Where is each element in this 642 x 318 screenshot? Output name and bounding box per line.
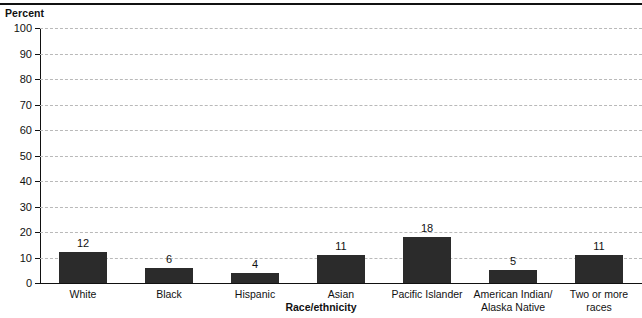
bar-value-label: 12 bbox=[59, 237, 107, 249]
y-tick-label-80: 80 bbox=[20, 73, 32, 85]
x-tick-label: Pacific Islander bbox=[384, 288, 470, 301]
y-tick-label-90: 90 bbox=[20, 48, 32, 60]
bar-slot: 4 bbox=[231, 28, 279, 283]
bar-series: 12641118511 bbox=[40, 28, 642, 283]
x-tick-label-line: Pacific Islander bbox=[384, 288, 470, 301]
x-tick-label: Asian bbox=[298, 288, 384, 301]
y-tick-label-50: 50 bbox=[20, 150, 32, 162]
gridline-0 bbox=[40, 283, 642, 284]
bar[interactable] bbox=[145, 268, 193, 283]
x-tick-label-line: Asian bbox=[298, 288, 384, 301]
y-tick-label-70: 70 bbox=[20, 99, 32, 111]
bar-value-label: 11 bbox=[575, 240, 623, 252]
bar[interactable] bbox=[575, 255, 623, 283]
bar[interactable] bbox=[403, 237, 451, 283]
bar-value-label: 4 bbox=[231, 258, 279, 270]
top-cutoff-text bbox=[400, 0, 642, 1]
plot-area: 0102030405060708090100 12641118511 bbox=[40, 28, 642, 283]
y-tick-label-0: 0 bbox=[26, 277, 32, 289]
x-tick-label: White bbox=[40, 288, 126, 301]
x-tick-label-line: Hispanic bbox=[212, 288, 298, 301]
bar-slot: 6 bbox=[145, 28, 193, 283]
y-tick-mark-0 bbox=[35, 283, 40, 284]
bar-slot: 11 bbox=[575, 28, 623, 283]
bar-value-label: 5 bbox=[489, 255, 537, 267]
y-tick-label-100: 100 bbox=[14, 22, 32, 34]
y-tick-label-30: 30 bbox=[20, 201, 32, 213]
y-tick-label-10: 10 bbox=[20, 252, 32, 264]
bar[interactable] bbox=[231, 273, 279, 283]
x-tick-label-line: Black bbox=[126, 288, 212, 301]
bar[interactable] bbox=[317, 255, 365, 283]
x-tick-label: Hispanic bbox=[212, 288, 298, 301]
x-tick-label-line: American Indian/ bbox=[470, 288, 556, 301]
bar-slot: 5 bbox=[489, 28, 537, 283]
bar-value-label: 11 bbox=[317, 240, 365, 252]
y-tick-label-40: 40 bbox=[20, 175, 32, 187]
page-top-rule bbox=[0, 3, 642, 5]
bar-chart-figure: Percent 0102030405060708090100 126411185… bbox=[0, 0, 642, 318]
bar-value-label: 18 bbox=[403, 222, 451, 234]
bar-slot: 11 bbox=[317, 28, 365, 283]
x-tick-label: Black bbox=[126, 288, 212, 301]
y-tick-label-20: 20 bbox=[20, 226, 32, 238]
bar[interactable] bbox=[59, 252, 107, 283]
bar[interactable] bbox=[489, 270, 537, 283]
y-tick-label-60: 60 bbox=[20, 124, 32, 136]
bar-slot: 12 bbox=[59, 28, 107, 283]
x-tick-label-line: White bbox=[40, 288, 126, 301]
y-axis-title: Percent bbox=[5, 7, 44, 19]
x-axis-title: Race/ethnicity bbox=[0, 301, 642, 313]
bar-slot: 18 bbox=[403, 28, 451, 283]
bar-value-label: 6 bbox=[145, 253, 193, 265]
